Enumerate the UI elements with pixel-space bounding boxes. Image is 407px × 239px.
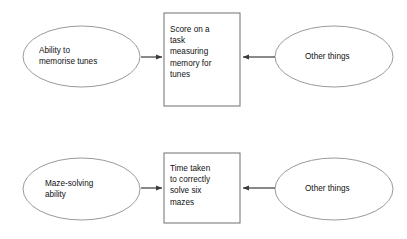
box-time-taken-mazes <box>164 153 240 223</box>
ellipse-other-things-top <box>275 26 393 87</box>
box-score-memory-tunes <box>164 13 240 106</box>
diagram-canvas: Ability to memorise tunes Score on a tas… <box>0 0 407 239</box>
ellipse-other-things-bottom <box>275 158 393 220</box>
diagram-shapes-layer <box>0 0 407 239</box>
ellipse-ability-to-memorise-tunes <box>23 26 140 87</box>
ellipse-maze-solving-ability <box>23 158 140 220</box>
